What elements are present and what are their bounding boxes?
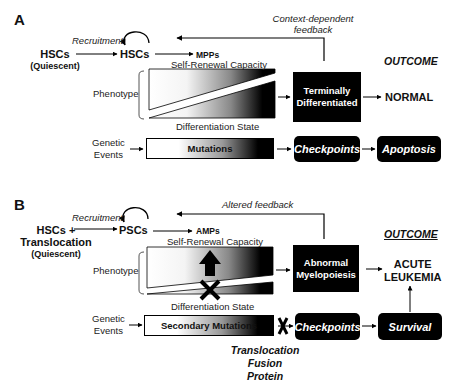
stem-node-b: PSCs bbox=[119, 224, 148, 236]
loop-icon-a bbox=[124, 32, 149, 45]
translocation-fusion-protein-label: Translocation Fusion Protein bbox=[230, 344, 300, 382]
translocation-line1: Translocation bbox=[230, 344, 300, 357]
panel-b-letter: B bbox=[14, 196, 25, 213]
self-renewal-label-b: Self-Renewal Capacity bbox=[167, 236, 263, 247]
stem-node-a: HSCs bbox=[120, 48, 149, 60]
feedback-label-a-line2: feedback bbox=[248, 24, 378, 35]
source-node-b: HSCs + Translocation (Quiescent) bbox=[16, 224, 96, 260]
genetic-events-label-a: Genetic Events bbox=[92, 137, 125, 161]
translocation-line2: Fusion Protein bbox=[230, 357, 300, 382]
am-line1: Abnormal bbox=[296, 257, 356, 269]
am-line2: Myelopoiesis bbox=[296, 269, 356, 281]
source-node-a-name: HSCs bbox=[20, 48, 90, 60]
progenitor-node-b: AMPs bbox=[196, 226, 220, 236]
feedback-label-b: Altered feedback bbox=[222, 199, 293, 210]
checkpoints-box-b: Checkpoints bbox=[295, 313, 360, 340]
panel-a-letter: A bbox=[14, 11, 25, 28]
outcome-normal: NORMAL bbox=[385, 91, 433, 104]
self-renewal-label-a: Self-Renewal Capacity bbox=[171, 59, 267, 70]
outcome-acute-leukemia: ACUTE LEUKEMIA bbox=[384, 258, 441, 284]
secondary-mutations-bar: Secondary Mutations bbox=[144, 315, 274, 336]
source-node-a: HSCs (Quiescent) bbox=[20, 48, 90, 72]
source-node-b-state: (Quiescent) bbox=[16, 248, 96, 260]
checkpoints-box-a: Checkpoints bbox=[294, 136, 360, 162]
abnormal-myelopoiesis-box: Abnormal Myelopoiesis bbox=[293, 245, 359, 292]
source-node-a-state: (Quiescent) bbox=[20, 60, 90, 72]
terminally-differentiated-box: Terminally Differentiated bbox=[293, 72, 361, 122]
apoptosis-box: Apoptosis bbox=[377, 136, 441, 162]
source-node-b-line2: Translocation bbox=[16, 236, 96, 248]
phenotype-label-a: Phenotype bbox=[93, 88, 138, 99]
survival-box: Survival bbox=[378, 313, 442, 340]
mutations-bar-a: Mutations bbox=[146, 138, 274, 159]
outcome-heading-b: OUTCOME bbox=[384, 228, 438, 240]
genetic-line2-b: Events bbox=[92, 325, 125, 337]
recruitment-label-b: Recruitment bbox=[72, 212, 123, 223]
differentiation-label-a: Differentiation State bbox=[176, 121, 259, 132]
differentiation-label-b: Differentiation State bbox=[171, 301, 254, 312]
feedback-label-a: Context-dependent feedback bbox=[248, 13, 378, 35]
outcome-line2: LEUKEMIA bbox=[384, 271, 441, 284]
loop-icon-b bbox=[123, 208, 148, 222]
td-line1: Terminally bbox=[296, 85, 357, 97]
feedback-label-a-line1: Context-dependent bbox=[248, 13, 378, 24]
genetic-line2-a: Events bbox=[92, 149, 125, 161]
phenotype-label-b: Phenotype bbox=[93, 265, 138, 276]
genetic-events-label-b: Genetic Events bbox=[92, 313, 125, 337]
outcome-heading-a: OUTCOME bbox=[384, 55, 438, 67]
td-line2: Differentiated bbox=[296, 97, 357, 109]
outcome-line1: ACUTE bbox=[384, 258, 441, 271]
genetic-line1-a: Genetic bbox=[92, 137, 125, 149]
recruitment-label-a: Recruitment bbox=[72, 35, 123, 46]
source-node-b-line1: HSCs + bbox=[16, 224, 96, 236]
genetic-line1-b: Genetic bbox=[92, 313, 125, 325]
